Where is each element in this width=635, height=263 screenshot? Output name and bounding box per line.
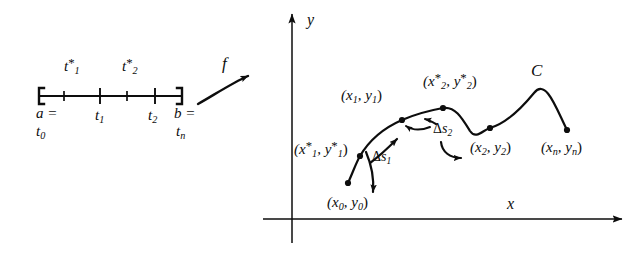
p1s-close: )	[343, 141, 348, 157]
t2-sub: 2	[152, 114, 157, 125]
b-equals-text: b =	[174, 105, 195, 121]
arrow-delta-s2	[441, 142, 461, 158]
label-point-x1-star-y1-star: (x*1, y*1)	[294, 140, 348, 160]
f-text: f	[222, 54, 227, 73]
label-t1-star: t*1	[64, 57, 80, 77]
label-t1: t1	[95, 108, 104, 125]
label-t2: t2	[148, 108, 157, 125]
point-x0-y0	[345, 180, 351, 186]
label-point-x0-y0: (x0, y0)	[327, 195, 368, 212]
t1-star-sub: 1	[75, 65, 80, 76]
point-x2-star-y2-star	[440, 105, 446, 111]
p1-open: (x	[341, 87, 353, 103]
interval-number-line	[39, 88, 182, 104]
label-tn: tn	[176, 124, 185, 141]
ds1-delta: Δ	[372, 149, 381, 164]
label-t0: t0	[36, 124, 45, 141]
label-point-xn-yn: (xn, yn)	[541, 140, 582, 157]
ds2-delta: Δ	[433, 121, 442, 136]
point-x1-star-y1-star	[357, 153, 363, 159]
p0-close: )	[363, 194, 368, 210]
label-curve-C: C	[531, 62, 542, 79]
p2s-open: (x	[423, 73, 435, 89]
pn-close: )	[577, 139, 582, 155]
label-point-x2-star-y2-star: (x*2, y*2)	[423, 72, 477, 92]
p1-mid: , y	[358, 87, 372, 103]
p0-open: (x	[327, 194, 339, 210]
tn-sub: n	[180, 130, 185, 141]
figure-canvas: t*1 t*2 a = t0 t1 t2 b = tn f y x C (x0,…	[0, 0, 635, 263]
point-x1-y1	[399, 117, 405, 123]
t0-sub: 0	[40, 130, 45, 141]
a-equals-text: a =	[36, 105, 57, 121]
p2s-mid: , y	[446, 73, 460, 89]
mapping-arrow-f	[198, 76, 248, 104]
p2s-close: )	[472, 73, 477, 89]
ds1-sub: 1	[386, 156, 391, 166]
ds2-sub: 2	[447, 128, 452, 138]
label-a-equals: a =	[36, 106, 57, 121]
arrow-to-x1-y1	[406, 126, 430, 130]
diagram-svg	[0, 0, 635, 263]
x-axis-text: x	[507, 195, 514, 212]
p1s-open: (x	[294, 141, 306, 157]
p1s-mid: , y	[317, 141, 331, 157]
pn-mid: , y	[558, 139, 572, 155]
p2-mid: , y	[487, 139, 501, 155]
label-b-equals: b =	[174, 106, 195, 121]
label-point-x2-y2: (x2, y2)	[470, 140, 511, 157]
point-xn-yn	[564, 127, 570, 133]
point-x2-y2	[487, 125, 493, 131]
p1-close: )	[377, 87, 382, 103]
p2-close: )	[506, 139, 511, 155]
f-arrow-path	[198, 76, 248, 104]
label-delta-s1: Δs1	[372, 150, 391, 167]
t2-star-sub: 2	[133, 65, 138, 76]
label-t2-star: t*2	[122, 57, 138, 77]
label-delta-s2: Δs2	[433, 122, 452, 139]
label-point-x1-y1: (x1, y1)	[341, 88, 382, 105]
curve-C-text: C	[531, 61, 542, 80]
p0-mid: , y	[344, 194, 358, 210]
pn-open: (x	[541, 139, 553, 155]
t1-sub: 1	[99, 114, 104, 125]
label-y-axis: y	[307, 12, 314, 28]
label-x-axis: x	[507, 196, 514, 212]
p2-open: (x	[470, 139, 482, 155]
y-axis-text: y	[307, 11, 314, 28]
label-f: f	[222, 55, 227, 72]
